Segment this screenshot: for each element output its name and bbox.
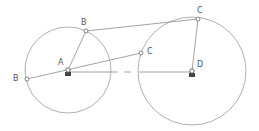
joint-C-mid-icon: [139, 51, 143, 55]
label-A: A: [58, 59, 63, 67]
label-D: D: [197, 61, 203, 69]
label-B-left: B: [13, 75, 19, 83]
joint-C-top-icon: [196, 17, 200, 21]
link-B-C-top: [86, 19, 198, 31]
label-C-top: C: [197, 7, 203, 15]
label-B-top: B: [81, 19, 87, 27]
diagram-svg: [0, 0, 259, 131]
link-B-left-to-C-mid: [27, 53, 141, 79]
ground-pivot-D-icon: [189, 69, 195, 77]
joint-B-left-icon: [25, 77, 29, 81]
link-A-B: [68, 31, 86, 70]
linkage-diagram: A B B C C D: [0, 0, 259, 131]
joint-B-top-icon: [84, 29, 88, 33]
label-C-mid: C: [147, 48, 153, 56]
